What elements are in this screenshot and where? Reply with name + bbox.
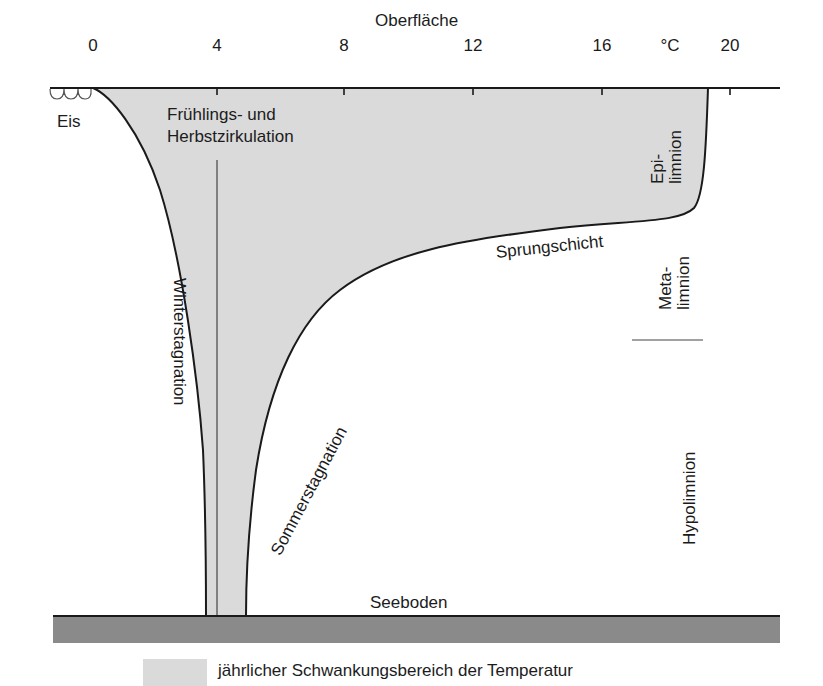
winter-stagnation-label: Winterstagnation: [170, 278, 188, 406]
tick-label-12: 12: [464, 37, 483, 54]
metalimnion-label: Meta- limnion: [657, 256, 694, 310]
lake-temperature-diagram: Oberfläche 0 4 8 12 16 °C 20 Eis Frühlin…: [0, 0, 823, 686]
unit-label: °C: [660, 37, 679, 54]
lake-bottom-sediment: [53, 616, 780, 643]
epilimnion-line2: limnion: [667, 130, 685, 184]
tick-label-0: 0: [88, 37, 97, 54]
diagram-graphics: [0, 0, 823, 686]
hypolimnion-label: Hypolimnion: [681, 451, 699, 545]
epilimnion-label: Epi- limnion: [649, 130, 686, 184]
surface-label: Oberfläche: [375, 12, 458, 29]
epilimnion-line1: Epi-: [649, 130, 667, 184]
circulation-label-line1: Frühlings- und: [167, 106, 276, 123]
tick-label-8: 8: [339, 37, 348, 54]
lake-bottom-label: Seeboden: [370, 594, 448, 611]
ice-label: Eis: [57, 113, 81, 130]
legend-swatch: [143, 659, 207, 686]
metalimnion-line1: Meta-: [657, 256, 675, 310]
legend-text: jährlicher Schwankungsbereich der Temper…: [218, 662, 573, 679]
metalimnion-line2: limnion: [675, 256, 693, 310]
tick-label-20: 20: [721, 37, 740, 54]
circulation-label-line2: Herbstzirkulation: [167, 128, 294, 145]
tick-label-16: 16: [593, 37, 612, 54]
tick-label-4: 4: [212, 37, 221, 54]
ice-icon: [50, 89, 91, 99]
